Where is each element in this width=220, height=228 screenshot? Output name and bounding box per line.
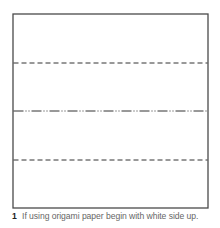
step-instruction: If using origami paper begin with white … [22,211,198,221]
origami-fold-diagram [0,0,220,228]
step-caption: 1 If using origami paper begin with whit… [12,211,220,222]
step-number: 1 [12,211,17,221]
